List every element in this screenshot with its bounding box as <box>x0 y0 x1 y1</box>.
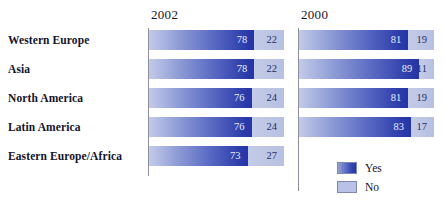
legend: Yes No <box>337 159 433 197</box>
bar-value-yes: 76 <box>234 93 252 104</box>
panel-2002: 2002 78 22 78 22 76 <box>145 0 290 204</box>
bar-segment-yes: 76 <box>149 117 252 137</box>
bar-segment-yes: 81 <box>299 30 408 50</box>
bar-segment-no: 17 <box>411 117 434 137</box>
panel-2000: 2000 81 19 89 11 81 <box>295 0 446 204</box>
bar-segment-yes: 89 <box>299 59 419 79</box>
bar-value-no: 27 <box>266 151 284 162</box>
bar-row: 89 11 <box>299 59 434 79</box>
bar-row: 73 27 <box>149 146 284 166</box>
bar-value-yes: 76 <box>234 122 252 133</box>
legend-swatch-yes-icon <box>337 162 357 174</box>
legend-swatch-no-icon <box>337 181 357 193</box>
bar-row: 78 22 <box>149 59 284 79</box>
bar-value-yes: 81 <box>391 35 409 46</box>
bar-segment-yes: 76 <box>149 88 252 108</box>
bar-row: 76 24 <box>149 88 284 108</box>
bars-2000: 81 19 89 11 81 19 <box>299 30 434 176</box>
category-label: Eastern Europe/Africa <box>8 146 142 166</box>
bar-segment-no: 19 <box>408 88 434 108</box>
legend-label-no: No <box>365 181 379 193</box>
bar-row: 81 19 <box>299 30 434 50</box>
bar-value-yes: 78 <box>237 64 255 75</box>
legend-item-yes: Yes <box>337 159 433 176</box>
bar-value-no: 22 <box>266 64 284 75</box>
bar-value-no: 19 <box>416 35 434 46</box>
bar-segment-yes: 78 <box>149 30 254 50</box>
legend-label-yes: Yes <box>365 162 382 174</box>
bar-segment-no: 22 <box>254 30 284 50</box>
panel-title-2000: 2000 <box>301 7 328 23</box>
category-label: Latin America <box>8 117 142 137</box>
bar-value-yes: 81 <box>391 93 409 104</box>
category-label-column: Western Europe Asia North America Latin … <box>0 30 146 176</box>
bar-value-no: 24 <box>266 93 284 104</box>
bar-value-yes: 73 <box>230 151 248 162</box>
bar-segment-no: 22 <box>254 59 284 79</box>
bar-segment-yes: 83 <box>299 117 411 137</box>
bars-2002: 78 22 78 22 76 24 <box>149 30 284 176</box>
bar-segment-no: 11 <box>419 59 434 79</box>
bar-segment-no: 24 <box>252 117 284 137</box>
category-label: Western Europe <box>8 30 142 50</box>
bar-row: 83 17 <box>299 117 434 137</box>
bar-segment-yes: 81 <box>299 88 408 108</box>
panel-title-2002: 2002 <box>151 7 178 23</box>
bar-value-no: 11 <box>417 64 434 75</box>
category-label: North America <box>8 88 142 108</box>
bar-row: 78 22 <box>149 30 284 50</box>
bar-value-yes: 78 <box>237 35 255 46</box>
bar-value-no: 17 <box>416 122 434 133</box>
bar-segment-yes: 78 <box>149 59 254 79</box>
bar-value-yes: 83 <box>394 122 412 133</box>
bar-value-no: 19 <box>416 93 434 104</box>
bar-value-no: 24 <box>266 122 284 133</box>
legend-item-no: No <box>337 178 433 195</box>
bar-segment-yes: 73 <box>149 146 248 166</box>
stacked-bar-chart: Western Europe Asia North America Latin … <box>0 0 446 204</box>
category-label: Asia <box>8 59 142 79</box>
bar-segment-no: 27 <box>248 146 284 166</box>
bar-segment-no: 19 <box>408 30 434 50</box>
bar-row: 81 19 <box>299 88 434 108</box>
bar-value-no: 22 <box>266 35 284 46</box>
bar-segment-no: 24 <box>252 88 284 108</box>
bar-row: 76 24 <box>149 117 284 137</box>
